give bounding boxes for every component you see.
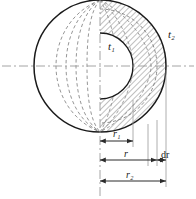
sphere-conduction-figure: t₁ t₂ r₁ r dr r₂ (0, 0, 196, 199)
label-inner-radius: r₁ (113, 128, 120, 139)
label-outer-radius: r₂ (126, 169, 133, 180)
label-inner-temperature: t₁ (108, 40, 115, 52)
label-outer-temperature: t₂ (168, 28, 175, 40)
figure-canvas (0, 0, 196, 199)
label-generic-radius: r (124, 148, 128, 159)
label-shell-thickness: dr (161, 149, 169, 160)
